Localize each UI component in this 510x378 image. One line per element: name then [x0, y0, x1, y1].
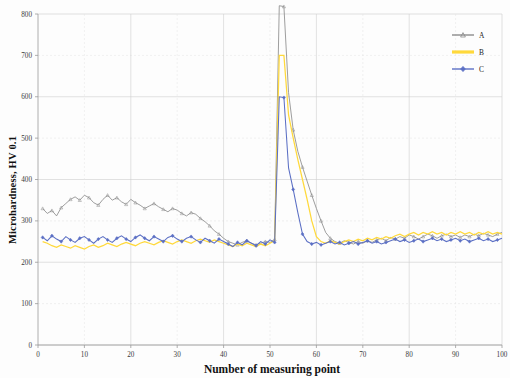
legend-label-B: B [479, 48, 484, 57]
legend-item-C[interactable]: C [452, 65, 484, 74]
y-tick-label: 300 [21, 217, 32, 225]
chart-legend[interactable]: ABC [452, 31, 485, 74]
x-tick-label: 80 [406, 351, 414, 359]
series-line-C [43, 97, 502, 247]
y-tick-label: 200 [21, 259, 32, 267]
x-tick-label: 30 [174, 351, 182, 359]
x-tick-label: 50 [266, 351, 274, 359]
y-tick-label: 800 [21, 11, 32, 19]
data-point-marker [310, 242, 313, 245]
x-axis-title: Number of measuring point [204, 363, 340, 376]
y-tick-label: 500 [21, 135, 32, 143]
chart-container: 0100200300400500600700800010203040506070… [0, 0, 510, 378]
y-tick-label: 100 [21, 300, 32, 308]
data-point-marker [41, 207, 44, 210]
data-point-marker [468, 240, 471, 243]
y-tick-label: 0 [28, 342, 32, 350]
grid-layer [38, 14, 502, 345]
data-point-marker [440, 237, 443, 240]
data-point-marker [449, 238, 452, 241]
series-B [43, 55, 502, 249]
series-line-B [43, 55, 502, 249]
axes-layer [35, 14, 502, 348]
y-tick-label: 600 [21, 93, 32, 101]
x-tick-label: 90 [452, 351, 460, 359]
legend-label-C: C [479, 65, 484, 74]
legend-marker-C [461, 66, 466, 71]
y-axis-title: Microhardness, HV 0.1 [7, 136, 18, 244]
data-point-marker [292, 188, 295, 191]
y-tick-label: 700 [21, 52, 32, 60]
data-point-marker [282, 96, 285, 99]
x-tick-label: 60 [313, 351, 321, 359]
series-C [41, 96, 502, 248]
x-tick-label: 70 [359, 351, 367, 359]
y-tick-label: 400 [21, 176, 32, 184]
data-point-marker [487, 237, 490, 240]
microhardness-line-chart: 0100200300400500600700800010203040506070… [0, 0, 510, 378]
x-tick-label: 0 [36, 351, 40, 359]
tick-labels-layer: 0100200300400500600700800010203040506070… [21, 11, 508, 359]
data-point-marker [320, 243, 323, 246]
data-point-marker [496, 238, 499, 241]
legend-item-A[interactable]: A [452, 31, 485, 40]
series-A [41, 5, 502, 246]
legend-label-A: A [479, 31, 485, 40]
series-line-A [43, 6, 502, 245]
data-point-marker [459, 239, 462, 242]
data-point-marker [412, 239, 415, 242]
x-tick-label: 100 [497, 351, 508, 359]
x-tick-label: 10 [81, 351, 89, 359]
data-point-marker [329, 240, 332, 243]
x-tick-label: 40 [220, 351, 228, 359]
x-tick-label: 20 [127, 351, 135, 359]
data-series-layer [41, 5, 502, 249]
data-point-marker [422, 240, 425, 243]
